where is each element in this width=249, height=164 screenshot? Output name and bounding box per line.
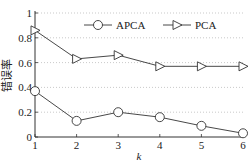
x-tick-label: 2 bbox=[74, 139, 80, 151]
x-tick-label: 3 bbox=[115, 139, 121, 151]
x-tick-label: 1 bbox=[32, 139, 38, 151]
x-axis-label: k bbox=[137, 150, 143, 162]
series-line-pca bbox=[35, 30, 243, 66]
triangle-marker-icon bbox=[197, 62, 206, 71]
series-line-apca bbox=[35, 91, 243, 133]
circle-marker-icon bbox=[72, 116, 81, 125]
y-axis-label: 错误率 bbox=[0, 59, 13, 92]
line-chart: 00.20.40.60.81123456 APCAPCA k 错误率 bbox=[0, 0, 249, 164]
x-tick-label: 4 bbox=[157, 139, 163, 151]
legend: APCAPCA bbox=[84, 19, 216, 31]
series-lines bbox=[31, 26, 249, 138]
y-tick-label: 0.2 bbox=[18, 106, 32, 118]
circle-marker-icon bbox=[94, 21, 103, 30]
triangle-marker-icon bbox=[73, 54, 82, 63]
legend-label-apca: APCA bbox=[116, 19, 145, 31]
y-tick-label: 1 bbox=[27, 7, 33, 19]
triangle-marker-icon bbox=[239, 62, 248, 71]
circle-marker-icon bbox=[31, 87, 40, 96]
y-tick-label: 0.8 bbox=[18, 32, 32, 44]
circle-marker-icon bbox=[239, 129, 248, 138]
circle-marker-icon bbox=[197, 121, 206, 130]
chart-canvas: 00.20.40.60.81123456 APCAPCA k 错误率 bbox=[0, 0, 249, 164]
legend-label-pca: PCA bbox=[195, 19, 216, 31]
circle-marker-icon bbox=[155, 113, 164, 122]
x-tick-label: 6 bbox=[240, 139, 246, 151]
triangle-marker-icon bbox=[156, 62, 165, 71]
x-tick-label: 5 bbox=[199, 139, 205, 151]
triangle-marker-icon bbox=[173, 21, 182, 30]
circle-marker-icon bbox=[114, 108, 123, 117]
y-tick-label: 0.6 bbox=[18, 57, 32, 69]
triangle-marker-icon bbox=[114, 51, 123, 60]
